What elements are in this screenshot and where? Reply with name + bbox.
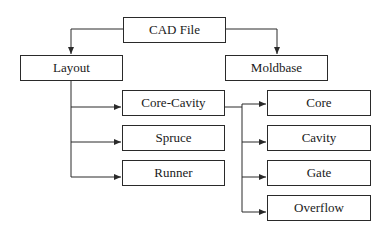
node-label: Runner	[154, 165, 192, 181]
node-cad-file: CAD File	[123, 17, 226, 43]
node-runner: Runner	[122, 160, 225, 186]
edge-cad-to-moldbase	[226, 29, 277, 54]
node-label: Moldbase	[251, 60, 302, 76]
node-label: Overflow	[294, 200, 344, 216]
node-label: Cavity	[302, 130, 337, 146]
node-label: Core-Cavity	[141, 95, 205, 111]
node-label: Layout	[53, 60, 90, 76]
node-cavity: Cavity	[267, 125, 371, 151]
node-gate: Gate	[267, 160, 371, 186]
node-spruce: Spruce	[122, 125, 225, 151]
node-core: Core	[267, 90, 371, 116]
node-label: CAD File	[149, 22, 200, 38]
node-moldbase: Moldbase	[225, 55, 328, 81]
node-label: Core	[306, 95, 331, 111]
edge-cad-to-layout	[71, 29, 123, 54]
node-label: Gate	[307, 165, 332, 181]
node-overflow: Overflow	[267, 195, 371, 221]
node-core-cavity: Core-Cavity	[122, 90, 225, 116]
node-label: Spruce	[155, 130, 191, 146]
node-layout: Layout	[20, 55, 123, 81]
